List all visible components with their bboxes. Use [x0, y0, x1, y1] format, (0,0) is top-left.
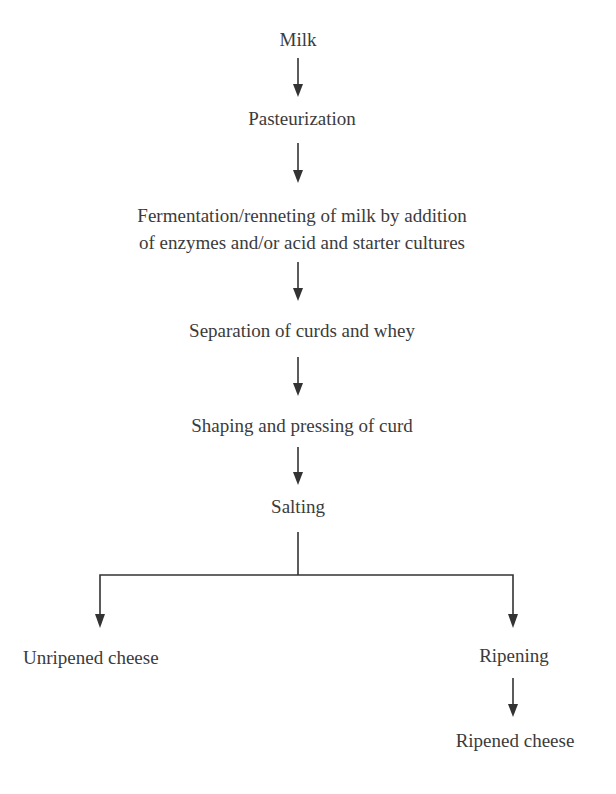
arrow-fermentation-to-separation	[293, 262, 303, 301]
arrow-milk-to-pasteurization	[293, 58, 303, 97]
arrow-pasteurization-to-fermentation	[293, 143, 303, 183]
node-fermentation-line1: Fermentation/renneting of milk by additi…	[137, 202, 466, 229]
node-shaping: Shaping and pressing of curd	[191, 412, 413, 439]
arrow-shaping-to-salting	[293, 447, 303, 485]
node-unripened-cheese: Unripened cheese	[23, 644, 159, 671]
node-ripening: Ripening	[479, 642, 549, 669]
node-milk: Milk	[280, 26, 317, 53]
arrow-ripening-to-ripened	[508, 678, 518, 717]
arrow-separation-to-shaping	[293, 357, 303, 396]
node-fermentation-line2: of enzymes and/or acid and starter cultu…	[139, 229, 465, 256]
node-pasteurization: Pasteurization	[248, 105, 356, 132]
branch-connector-salting	[95, 532, 518, 628]
node-salting: Salting	[271, 493, 325, 520]
node-ripened-cheese: Ripened cheese	[456, 727, 575, 754]
node-separation: Separation of curds and whey	[189, 317, 415, 344]
